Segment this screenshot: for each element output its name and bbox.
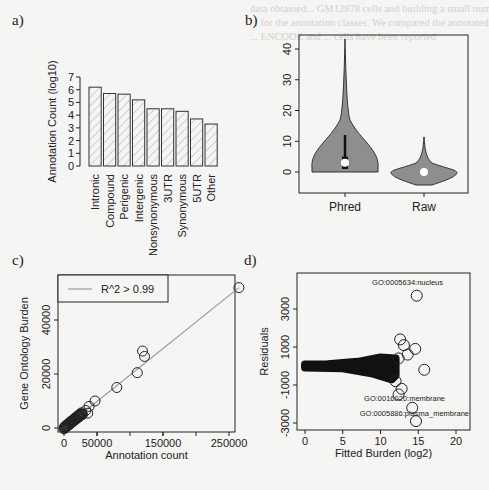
violin-plot-phred-raw: 010203040PhredRaw [281, 35, 468, 214]
svg-text:20: 20 [450, 435, 462, 447]
figure-page: data obtained... GM12878 cells and build… [0, 0, 489, 490]
svg-text:5: 5 [68, 96, 74, 108]
svg-text:50000: 50000 [82, 437, 113, 449]
svg-text:40: 40 [281, 43, 293, 55]
svg-text:Intergenic: Intergenic [133, 174, 145, 223]
svg-text:10: 10 [281, 135, 293, 147]
svg-text:R^2 > 0.99: R^2 > 0.99 [101, 283, 154, 295]
svg-text:40000: 40000 [40, 305, 52, 336]
svg-text:Residuals: Residuals [258, 327, 270, 376]
svg-text:3: 3 [68, 122, 74, 134]
svg-text:250000: 250000 [211, 437, 248, 449]
svg-text:20000: 20000 [40, 359, 52, 390]
scatter-go-burden: 05000015000025000002000040000Annotation … [18, 275, 247, 461]
bar-other [205, 124, 217, 166]
svg-text:20: 20 [281, 104, 293, 116]
svg-text:0: 0 [302, 435, 308, 447]
bar-intergenic [133, 100, 145, 166]
svg-text:2: 2 [68, 135, 74, 147]
svg-text:5UTR: 5UTR [191, 174, 203, 203]
svg-text:150000: 150000 [145, 437, 182, 449]
svg-text:Annotation Count (log10): Annotation Count (log10) [46, 60, 58, 182]
scatter-residuals: 05101520-3000-100010003000Fitted Burden … [258, 273, 470, 459]
dense-residual-cloud [305, 357, 396, 379]
violin-raw [391, 137, 457, 185]
svg-text:Intronic: Intronic [89, 174, 101, 211]
bar-chart-annotation-count: 01234567Annotation Count (log10)Intronic… [46, 60, 217, 256]
svg-text:10: 10 [374, 435, 386, 447]
svg-text:GO:0005634:nucleus: GO:0005634:nucleus [372, 278, 443, 287]
svg-text:Perigenic: Perigenic [118, 174, 130, 220]
svg-text:GO:0005886:plasma_membrane: GO:0005886:plasma_membrane [360, 409, 469, 418]
svg-text:6: 6 [68, 84, 74, 96]
svg-text:0: 0 [40, 425, 52, 431]
svg-text:30: 30 [281, 74, 293, 86]
svg-text:0: 0 [281, 169, 293, 175]
svg-text:Synonymous: Synonymous [176, 174, 188, 238]
svg-text:3000: 3000 [279, 297, 291, 321]
bar-nonsynonymous [147, 109, 159, 166]
svg-text:Annotation count: Annotation count [105, 449, 188, 461]
bar-5utr [191, 119, 203, 166]
bar-perigenic [118, 94, 130, 166]
svg-text:0: 0 [61, 437, 67, 449]
bar-synonymous [176, 111, 188, 166]
figure-canvas: 01234567Annotation Count (log10)Intronic… [0, 0, 489, 490]
svg-text:Gene Ontology Burden: Gene Ontology Burden [18, 297, 30, 410]
svg-text:5: 5 [340, 435, 346, 447]
bar-intronic [89, 87, 101, 166]
svg-text:Other: Other [205, 174, 217, 202]
bar-compound [104, 94, 116, 166]
svg-text:GO:0016020:membrane: GO:0016020:membrane [364, 394, 445, 403]
svg-text:Compound: Compound [104, 174, 116, 228]
svg-text:1000: 1000 [279, 335, 291, 359]
bar-3utr [162, 109, 174, 166]
svg-text:4: 4 [68, 109, 74, 121]
svg-text:-3000: -3000 [279, 409, 291, 437]
svg-text:Fitted Burden (log2): Fitted Burden (log2) [335, 447, 432, 459]
svg-text:-1000: -1000 [279, 371, 291, 399]
svg-text:3UTR: 3UTR [162, 174, 174, 203]
svg-text:Raw: Raw [412, 200, 436, 214]
svg-text:1: 1 [68, 147, 74, 159]
svg-text:15: 15 [412, 435, 424, 447]
svg-text:Phred: Phred [329, 200, 361, 214]
svg-text:Nonsynonymous: Nonsynonymous [147, 174, 159, 256]
svg-text:0: 0 [68, 160, 74, 172]
svg-text:7: 7 [68, 71, 74, 83]
